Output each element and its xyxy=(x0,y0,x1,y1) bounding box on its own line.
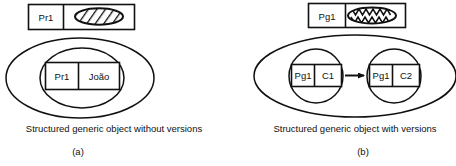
panel-b-caption: Structured generic object with versions xyxy=(273,123,436,134)
panel-a: Pr1 Pr1 João Structured generic object w… xyxy=(6,5,202,158)
panel-a-header-left-label: Pr1 xyxy=(39,12,54,23)
panel-a-header-box: Pr1 xyxy=(29,5,135,30)
panel-a-caption: Structured generic object without versio… xyxy=(26,123,203,134)
version-2-left-label: Pg1 xyxy=(373,70,390,81)
panel-b-label: (b) xyxy=(357,146,369,157)
figure-root: Pr1 Pr1 João Structured generic object w… xyxy=(0,0,456,166)
panel-a-inner-right-label: João xyxy=(89,71,110,82)
panel-b-header-box: Pg1 xyxy=(309,4,406,28)
version-1-right-label: C1 xyxy=(322,70,334,81)
panel-a-inner-left-label: Pr1 xyxy=(55,71,70,82)
hatched-ellipse-icon xyxy=(75,8,123,24)
version-1-left-label: Pg1 xyxy=(295,70,312,81)
panel-b-version-box-2: Pg1 C2 xyxy=(370,65,420,87)
panel-a-inner-box: Pr1 João xyxy=(46,63,120,90)
diagram-canvas: Pr1 Pr1 João Structured generic object w… xyxy=(0,0,456,166)
panel-b-header-left-label: Pg1 xyxy=(319,11,336,22)
panel-b-version-box-1: Pg1 C1 xyxy=(292,65,342,87)
panel-a-label: (a) xyxy=(72,146,84,157)
version-2-right-label: C2 xyxy=(400,70,412,81)
panel-b: Pg1 Pg1 C1 xyxy=(254,4,456,158)
scribble-ellipse-icon xyxy=(348,8,396,24)
